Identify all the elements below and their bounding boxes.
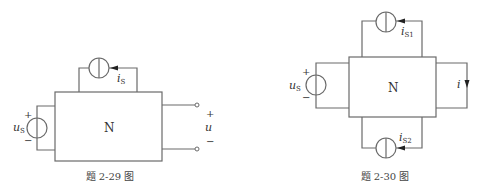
top-loop-right-wire — [396, 21, 422, 57]
arrow-down-icon — [465, 80, 470, 88]
network-label: N — [104, 121, 115, 135]
caption-2-30: 题 2-30 图 — [361, 171, 410, 182]
caption-2-29: 题 2-29 图 — [86, 171, 135, 182]
bottom-loop-left-wire — [362, 117, 376, 148]
is1-label: iS1 — [401, 25, 414, 39]
arrow-left-icon — [397, 19, 405, 24]
output-short-loop — [436, 63, 467, 108]
figure-2-29: iS N + uS − + u − 题 2-29 图 — [13, 58, 214, 182]
vs-bottom-wire — [316, 95, 349, 108]
us-minus-sign: − — [24, 135, 32, 146]
arrow-left-icon — [110, 66, 118, 71]
vs-bottom-wire — [37, 138, 55, 150]
i-label: i — [457, 78, 461, 91]
us-plus-sign: + — [24, 109, 32, 120]
is2-label: iS2 — [399, 131, 412, 145]
vs-top-wire — [37, 106, 55, 118]
top-loop-left-wire — [79, 68, 89, 92]
u-plus-sign: + — [206, 108, 214, 119]
us-minus-sign: − — [302, 92, 310, 103]
terminal-bottom — [195, 147, 199, 151]
is-label: iS — [117, 72, 126, 86]
us-label: uS — [289, 79, 301, 93]
circuit-diagrams: iS N + uS − + u − 题 2-29 图 — [0, 0, 483, 194]
figure-2-30: iS1 N + uS − i iS2 题 2-30 图 — [289, 12, 470, 182]
us-plus-sign: + — [302, 66, 310, 77]
terminal-top — [195, 103, 199, 107]
network-label: N — [388, 81, 399, 95]
current-source-is — [89, 58, 118, 78]
u-minus-sign: − — [206, 136, 214, 147]
u-label: u — [205, 121, 212, 134]
arrow-left-icon — [397, 146, 405, 151]
us-label: uS — [13, 121, 25, 135]
top-loop-left-wire — [362, 21, 376, 57]
vs-top-wire — [316, 63, 349, 75]
